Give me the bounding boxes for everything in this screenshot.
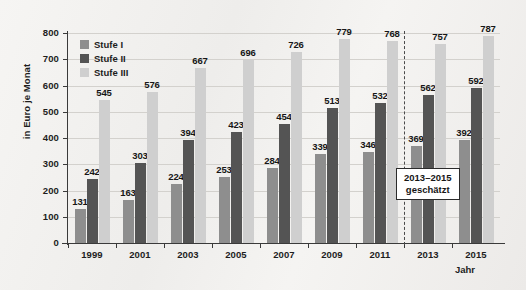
legend-item: Stufe II [80, 52, 128, 65]
x-tick-mark [212, 243, 213, 248]
bar [99, 100, 110, 243]
bar [147, 92, 158, 243]
plot-area: 1312425451633035762243946672534236962844… [68, 33, 500, 243]
bar-value-label: 726 [276, 39, 316, 50]
bar-value-label: 768 [372, 28, 412, 39]
y-tick-label: 0 [24, 237, 59, 249]
x-tick-mark [164, 243, 165, 248]
bar [327, 108, 338, 243]
y-tick-label: 100 [24, 211, 59, 223]
chart-figure: in Euro je Monat Jahr 010020030040050060… [0, 0, 526, 290]
y-tick-label: 700 [24, 53, 59, 65]
bar [135, 163, 146, 243]
y-tick-label-text: 500 [24, 106, 59, 117]
bar-value-label: 576 [132, 79, 172, 90]
x-tick-mark [68, 243, 69, 248]
bar-value-label: 757 [420, 31, 460, 42]
x-tick-mark [116, 243, 117, 248]
y-tick-label: 800 [24, 27, 59, 39]
x-tick-mark [356, 243, 357, 248]
bar-value-label: 667 [180, 55, 220, 66]
y-tick-label: 300 [24, 158, 59, 170]
bar [279, 124, 290, 243]
legend-label: Stufe III [94, 67, 128, 78]
bar [375, 103, 386, 243]
forecast-note: 2013–2015 geschätzt [396, 168, 460, 200]
bar [219, 177, 230, 243]
y-tick-label-text: 300 [24, 158, 59, 169]
x-tick-label: 2015 [446, 249, 506, 260]
bar-value-label: 779 [324, 26, 364, 37]
bar [315, 154, 326, 243]
x-tick-mark [452, 243, 453, 248]
forecast-divider [404, 31, 405, 245]
y-tick-label-text: 800 [24, 27, 59, 38]
legend-item: Stufe III [80, 66, 128, 79]
bar [459, 140, 470, 243]
y-tick-label-text: 600 [24, 80, 59, 91]
bar-value-label: 545 [84, 87, 124, 98]
legend-swatch-icon [80, 54, 89, 63]
y-tick-label: 400 [24, 132, 59, 144]
y-tick-label: 200 [24, 185, 59, 197]
forecast-note-line-2: geschätzt [404, 184, 452, 196]
bar [195, 68, 206, 243]
bar [87, 179, 98, 243]
y-tick-label-text: 700 [24, 53, 59, 64]
bar [243, 60, 254, 243]
bar-value-label: 787 [468, 23, 508, 34]
bar-value-label: 696 [228, 47, 268, 58]
bar [75, 209, 86, 243]
forecast-note-line-1: 2013–2015 [404, 172, 452, 184]
bar [231, 132, 242, 243]
bar [471, 88, 482, 243]
bar [363, 152, 374, 243]
legend-swatch-icon [80, 40, 89, 49]
x-tick-mark [308, 243, 309, 248]
x-axis-line [62, 243, 505, 244]
bar [183, 140, 194, 243]
legend-swatch-icon [80, 68, 89, 77]
bar [483, 36, 494, 243]
y-tick-label-text: 0 [24, 237, 59, 248]
bar [123, 200, 134, 243]
y-tick-label-text: 200 [24, 185, 59, 196]
bar [267, 168, 278, 243]
legend-label: Stufe I [94, 39, 123, 50]
x-tick-mark [260, 243, 261, 248]
y-tick-label: 500 [24, 106, 59, 118]
bar [435, 44, 446, 243]
y-tick-label: 600 [24, 80, 59, 92]
legend-label: Stufe II [94, 53, 126, 64]
bar [171, 184, 182, 243]
legend: Stufe IStufe IIStufe III [76, 36, 132, 82]
legend-item: Stufe I [80, 38, 128, 51]
x-axis-title: Jahr [455, 264, 475, 275]
y-tick-label-text: 400 [24, 132, 59, 143]
y-tick-label-text: 100 [24, 211, 59, 222]
